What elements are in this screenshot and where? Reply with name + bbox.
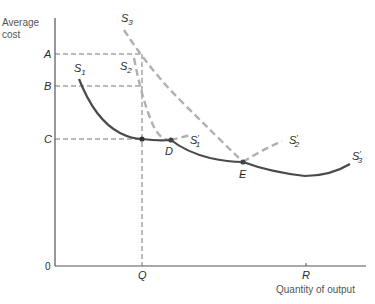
dashed-curves bbox=[124, 30, 282, 162]
guide-lines bbox=[55, 54, 142, 266]
origin-label: 0 bbox=[45, 261, 51, 272]
y-tick-b: B bbox=[44, 80, 51, 92]
x-tick-r-label: R bbox=[302, 269, 310, 281]
curve-s2-prime bbox=[243, 141, 282, 162]
point-d bbox=[168, 137, 173, 142]
point-e-label: E bbox=[239, 168, 247, 180]
label-s2-prime: S′2 bbox=[289, 133, 300, 149]
y-tick-a: A bbox=[43, 48, 51, 60]
x-axis-label: Quantity of output bbox=[276, 284, 355, 295]
y-axis-label-line1: Average bbox=[2, 17, 40, 28]
label-s1-prime: S′1 bbox=[190, 133, 200, 149]
label-s2: S2 bbox=[120, 60, 132, 75]
y-axis-label-line2: cost bbox=[2, 29, 21, 40]
label-s3: S3 bbox=[121, 12, 133, 27]
label-s1: S1 bbox=[74, 62, 86, 77]
curve-envelope-s1-to-s3-prime bbox=[79, 79, 350, 176]
x-tick-q: Q bbox=[138, 269, 147, 281]
y-tick-c: C bbox=[44, 133, 52, 145]
point-e bbox=[240, 159, 245, 164]
average-cost-diagram: Average cost Quantity of output 0 A B C … bbox=[0, 0, 375, 304]
point-d-label: D bbox=[165, 145, 173, 157]
point-q-c bbox=[139, 136, 144, 141]
curve-s1-prime bbox=[171, 135, 190, 140]
label-s3-prime: S′3 bbox=[352, 149, 363, 165]
